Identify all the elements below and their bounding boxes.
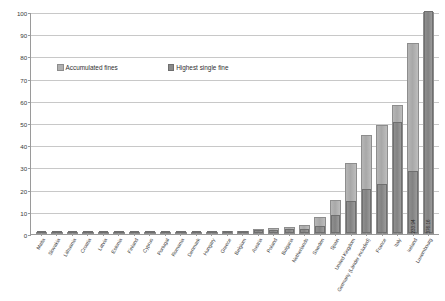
bar-group: 376.16 xyxy=(423,13,434,234)
bar-slot[interactable] xyxy=(328,13,343,234)
x-axis-tick-label: France xyxy=(374,237,387,253)
x-axis-label-slot: France xyxy=(374,236,390,301)
x-axis-label-slot: Estonia xyxy=(111,236,127,301)
bar-slot[interactable] xyxy=(390,13,405,234)
bar-slot[interactable] xyxy=(65,13,80,234)
x-axis-tick-label: Estonia xyxy=(110,237,124,254)
x-axis-label-slot: Sweden xyxy=(312,236,328,301)
x-axis-tick-label: Cyprus xyxy=(141,237,154,254)
bar-slot[interactable] xyxy=(235,13,250,234)
bar-accumulated-fines[interactable] xyxy=(376,125,387,234)
x-axis-tick-label: Italy xyxy=(393,237,403,248)
bar-slot[interactable] xyxy=(111,13,126,234)
x-axis-tick-label: Croatia xyxy=(79,237,92,254)
x-axis-label-slot: Bulgaria xyxy=(281,236,297,301)
bar-slot[interactable] xyxy=(173,13,188,234)
y-axis-tick-label: 70 xyxy=(20,76,27,83)
y-axis-tick-label: 20 xyxy=(20,187,27,194)
bar-group xyxy=(299,13,310,234)
bar-accumulated-fines[interactable]: 376.16 xyxy=(423,12,434,234)
x-axis-tick-label: Romania xyxy=(170,237,185,257)
bar-value-label: 233.94 xyxy=(410,219,415,233)
bar-highest-single-fine[interactable] xyxy=(331,215,340,233)
x-axis-tick-label: Lithuania xyxy=(62,237,77,258)
bar-slot[interactable] xyxy=(282,13,297,234)
bar-slot[interactable] xyxy=(158,13,173,234)
bar-accumulated-fines[interactable] xyxy=(330,200,341,234)
x-axis-label-slot: Germany (Länder included) xyxy=(359,236,375,301)
bar-group xyxy=(82,13,93,234)
legend-item[interactable]: Highest single fine xyxy=(168,64,229,71)
bar-group xyxy=(160,13,171,234)
x-axis-tick-label: Slovakia xyxy=(47,237,62,256)
y-axis-tick-label: 80 xyxy=(20,54,27,61)
bar-slot[interactable] xyxy=(359,13,374,234)
x-axis-tick-mark xyxy=(289,233,290,236)
bar-group xyxy=(314,13,325,234)
bar-slot[interactable]: 233.94 xyxy=(405,13,420,234)
bar-slot[interactable] xyxy=(204,13,219,234)
bar-slot[interactable] xyxy=(80,13,95,234)
x-axis-tick-mark xyxy=(273,233,274,236)
legend-item[interactable]: Accumulated fines xyxy=(57,64,118,71)
bar-slot[interactable] xyxy=(96,13,111,234)
bar-slot[interactable] xyxy=(251,13,266,234)
x-axis-label-slot: Finland xyxy=(126,236,142,301)
bar-slot[interactable] xyxy=(34,13,49,234)
legend-label: Highest single fine xyxy=(176,64,228,71)
x-axis-label-slot: Hungary xyxy=(204,236,220,301)
bar-accumulated-fines[interactable]: 233.94 xyxy=(407,43,418,234)
bar-slot[interactable]: 376.16 xyxy=(421,13,436,234)
accumulated-fines-swatch xyxy=(57,64,64,71)
bar-slot[interactable] xyxy=(189,13,204,234)
plot-area: 0102030405060708090100 233.94376.16 xyxy=(30,13,439,235)
bar-group xyxy=(253,13,264,234)
bar-highest-single-fine[interactable] xyxy=(315,226,324,233)
x-axis-label-slot: Cyprus xyxy=(142,236,158,301)
x-axis-tick-label: Spain xyxy=(329,237,341,251)
x-axis-tick-label: Belgium xyxy=(233,237,247,256)
bar-slot[interactable] xyxy=(49,13,64,234)
x-axis-tick-mark xyxy=(428,233,429,236)
bar-group xyxy=(129,13,140,234)
x-axis-label-slot: Ireland xyxy=(405,236,421,301)
bar-slot[interactable] xyxy=(297,13,312,234)
bar-highest-single-fine[interactable] xyxy=(424,11,433,233)
bar-chart: 0102030405060708090100 233.94376.16 Malt… xyxy=(0,0,445,301)
x-axis-tick-label: Bulgaria xyxy=(280,237,294,256)
bar-slot[interactable] xyxy=(142,13,157,234)
bar-group xyxy=(268,13,279,234)
x-axis-tick-mark xyxy=(335,233,336,236)
x-axis-tick-label: Denmark xyxy=(186,237,201,258)
bar-group xyxy=(144,13,155,234)
bar-accumulated-fines[interactable] xyxy=(361,135,372,234)
bar-accumulated-fines[interactable] xyxy=(392,105,403,234)
bar-highest-single-fine[interactable] xyxy=(346,201,355,233)
bar-highest-single-fine[interactable] xyxy=(362,189,371,233)
bar-slot[interactable] xyxy=(374,13,389,234)
x-axis-label-slot: Belgium xyxy=(235,236,251,301)
x-axis-tick-mark xyxy=(320,233,321,236)
x-axis-tick-mark xyxy=(196,233,197,236)
bar-slot[interactable] xyxy=(266,13,281,234)
bar-group xyxy=(222,13,233,234)
bar-group xyxy=(113,13,124,234)
bar-highest-single-fine[interactable] xyxy=(393,122,402,233)
bar-accumulated-fines[interactable] xyxy=(314,217,325,234)
x-axis-tick-label: Ireland xyxy=(405,237,418,253)
y-axis-tick-label: 90 xyxy=(20,32,27,39)
x-axis-label-slot: Greece xyxy=(219,236,235,301)
bar-slot[interactable] xyxy=(220,13,235,234)
x-axis-label-slot: Lithuania xyxy=(64,236,80,301)
y-axis-tick-label: 100 xyxy=(17,10,27,17)
bar-slot[interactable] xyxy=(127,13,142,234)
x-axis-tick-mark xyxy=(413,233,414,236)
bar-accumulated-fines[interactable] xyxy=(345,163,356,234)
x-axis-tick-mark xyxy=(118,233,119,236)
x-axis-label-slot: Netherlands xyxy=(297,236,313,301)
x-axis-tick-label: Sweden xyxy=(311,237,325,256)
bar-slot[interactable] xyxy=(343,13,358,234)
x-axis-tick-label: Greece xyxy=(219,237,232,254)
bar-highest-single-fine[interactable] xyxy=(377,184,386,233)
bar-slot[interactable] xyxy=(312,13,327,234)
